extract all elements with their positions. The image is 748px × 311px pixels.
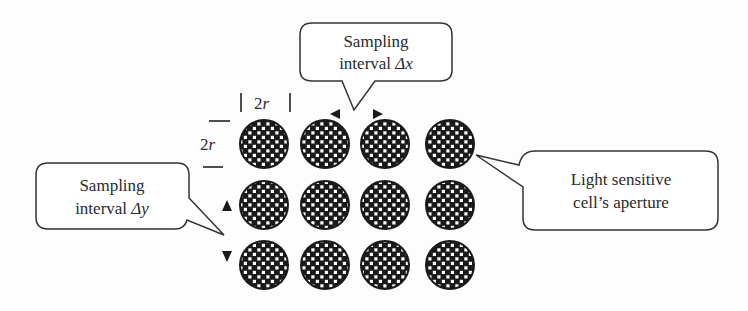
aperture-cell-r1-c4 xyxy=(426,120,474,168)
arrow-down-icon xyxy=(222,251,232,262)
aperture-cell-r3-c4 xyxy=(426,241,474,289)
callout-aperture-line2: cell’s aperture xyxy=(573,193,669,212)
callout-dx-line2: interval Δx xyxy=(339,54,413,73)
height-label: 2r xyxy=(200,135,216,154)
sampling-diagram: 2r 2r Sampling interval Δx Sampling inte… xyxy=(0,0,748,311)
width-label: 2r xyxy=(254,94,270,113)
callout-sampling-interval-dy: Sampling interval Δy xyxy=(36,163,224,235)
callout-light-sensitive-aperture: Light sensitive cell’s aperture xyxy=(476,151,718,230)
callout-aperture-line1: Light sensitive xyxy=(571,170,672,189)
aperture-cell-r1-c3 xyxy=(361,120,409,168)
callout-sampling-interval-dx: Sampling interval Δx xyxy=(300,23,452,110)
aperture-cell-r3-c3 xyxy=(361,241,409,289)
callout-dy-line1: Sampling xyxy=(79,176,145,195)
aperture-grid xyxy=(240,120,474,289)
aperture-cell-r1-c2 xyxy=(301,120,349,168)
arrow-left-icon xyxy=(330,109,340,119)
aperture-cell-r2-c2 xyxy=(301,181,349,229)
callout-dx-line1: Sampling xyxy=(343,32,409,51)
arrow-up-icon xyxy=(222,200,232,211)
callout-dy-line2: interval Δy xyxy=(75,199,149,218)
aperture-cell-r2-c4 xyxy=(426,181,474,229)
aperture-cell-r2-c3 xyxy=(361,181,409,229)
aperture-cell-r3-c2 xyxy=(301,241,349,289)
aperture-cell-r2-c1 xyxy=(240,181,288,229)
aperture-cell-r3-c1 xyxy=(240,241,288,289)
aperture-cell-r1-c1 xyxy=(240,120,288,168)
arrow-right-icon xyxy=(373,109,383,119)
